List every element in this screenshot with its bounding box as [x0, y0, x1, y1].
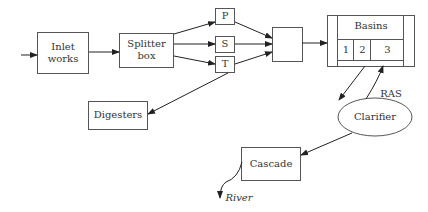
splitter-label-line1: Splitter	[119, 38, 174, 50]
inlet-label-line2: works	[37, 53, 89, 65]
process-flow-diagram: Inlet works Splitter box P S T Basins 1 …	[0, 0, 428, 212]
cascade-label: Cascade	[241, 158, 301, 170]
basins-to-clarifier-arrow	[339, 66, 365, 100]
basin-cell-3: 3	[371, 44, 404, 56]
inlet-works-label: Inlet works	[37, 41, 89, 65]
ras-label: RAS	[378, 88, 404, 100]
digesters-label: Digesters	[88, 109, 148, 121]
splitter-to-t-arrow	[174, 56, 215, 64]
basin-cell-1: 1	[338, 44, 354, 56]
clarifier-to-cascade-arrow	[301, 133, 352, 155]
splitter-label-line2: box	[119, 50, 174, 62]
p-to-mixer-arrow	[235, 22, 272, 38]
s-label: S	[215, 38, 235, 50]
t-label: T	[215, 58, 235, 70]
basins-label: Basins	[338, 20, 404, 32]
mixer-box	[273, 28, 303, 62]
splitter-to-p-arrow	[174, 22, 215, 34]
t-to-digesters-arrow	[148, 73, 228, 114]
river-label: River	[224, 192, 254, 204]
splitter-box-label: Splitter box	[119, 38, 174, 62]
p-label: P	[215, 10, 235, 22]
t-to-mixer-arrow	[235, 52, 272, 64]
inlet-label-line1: Inlet	[37, 41, 89, 53]
basin-cell-2: 2	[354, 44, 371, 56]
clarifier-label: Clarifier	[338, 111, 412, 123]
